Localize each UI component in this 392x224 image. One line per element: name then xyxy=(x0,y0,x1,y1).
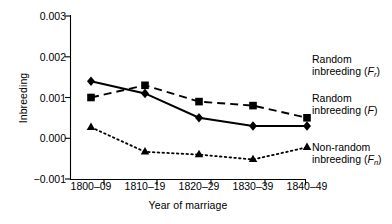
legend-label-line1-fn: Non-random xyxy=(312,141,370,153)
legend-subscript-fn: n xyxy=(374,158,378,167)
legend-label-line2-fn: inbreeding (Fn) xyxy=(312,153,392,167)
x-axis-title: Year of marriage xyxy=(70,199,306,211)
legend-label-line1-f: Random xyxy=(312,92,352,104)
legend-label-line1-fr: Random xyxy=(312,53,352,65)
legend-item-random-f: Random inbreeding (F) xyxy=(312,92,392,118)
x-tick-label-4: 1840–49 xyxy=(272,181,342,192)
chart-figure: 0.003 0.002 0.001 0.000 −0.001 1800–09 1… xyxy=(0,0,392,224)
legend-symbol-fn: F xyxy=(367,153,373,165)
legend-label-line2-fr: inbreeding (Fr) xyxy=(312,65,392,79)
legend-symbol-fr: F xyxy=(367,65,373,77)
series-fn-markers xyxy=(87,123,312,163)
legend-item-random-fr: Random inbreeding (Fr) xyxy=(312,53,392,79)
y-axis-title: Inbreeding xyxy=(17,38,29,158)
legend-item-nonrandom-fn: Non-random inbreeding (Fn) xyxy=(312,141,392,167)
series-nonrandom-inbreeding-fn xyxy=(87,123,312,163)
legend-label-line2-f: inbreeding (F) xyxy=(312,104,392,118)
